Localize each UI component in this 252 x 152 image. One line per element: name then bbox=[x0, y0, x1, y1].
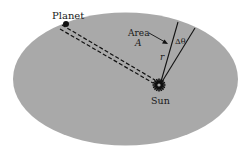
sun-label: Sun bbox=[151, 95, 170, 106]
radius-symbol-label: r bbox=[160, 52, 165, 62]
orbit-ellipse bbox=[13, 13, 238, 146]
angle-symbol-label: Δθ bbox=[175, 37, 186, 46]
diagram-canvas: Planet Area A r Δθ Sun bbox=[0, 0, 252, 152]
kepler-area-diagram: Planet Area A r Δθ Sun bbox=[0, 0, 252, 152]
area-symbol-label: A bbox=[134, 38, 142, 48]
sun-icon bbox=[153, 79, 166, 92]
planet-dot bbox=[63, 21, 69, 27]
planet-label: Planet bbox=[52, 10, 84, 21]
area-word-label: Area bbox=[127, 28, 150, 38]
